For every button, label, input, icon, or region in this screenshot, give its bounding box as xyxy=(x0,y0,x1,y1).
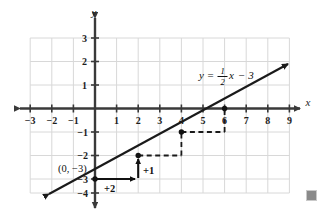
x-tick-label: 9 xyxy=(287,115,292,126)
point-6-0 xyxy=(222,106,227,111)
y-tick-label: 1 xyxy=(82,80,87,91)
y-tick-label: −2 xyxy=(77,150,88,161)
y-intercept-label: (0, −3) xyxy=(58,163,87,175)
x-tick-label: 1 xyxy=(114,115,119,126)
x-tick-label: −1 xyxy=(68,115,79,126)
equation-constant: − 3 xyxy=(238,69,254,81)
x-tick-label: 7 xyxy=(244,115,249,126)
y-tick-label: 2 xyxy=(82,56,87,67)
x-tick-label: 3 xyxy=(157,115,162,126)
equation-lhs: y = xyxy=(198,69,214,81)
graph-canvas: −3 −2 −1 1 2 3 4 5 6 7 8 9 3 2 1 −1 −2 −… xyxy=(0,0,326,215)
x-tick-label: 2 xyxy=(136,115,141,126)
point-0-neg3 xyxy=(92,176,97,181)
y-axis-title: y xyxy=(91,6,97,18)
run-label-plus-2: +2 xyxy=(104,183,115,194)
point-4-neg1 xyxy=(179,129,184,134)
equation-variable: x xyxy=(228,69,234,81)
coordinate-plane-figure: −3 −2 −1 1 2 3 4 5 6 7 8 9 3 2 1 −1 −2 −… xyxy=(0,0,326,215)
y-tick-label: −1 xyxy=(77,127,88,138)
x-tick-label: 5 xyxy=(201,115,206,126)
equation-numerator: 1 xyxy=(220,66,224,76)
y-tick-label: 3 xyxy=(82,33,87,44)
corner-square-artifact xyxy=(306,190,317,201)
rise-label-plus-1: +1 xyxy=(143,165,154,176)
x-axis-title: x xyxy=(305,96,311,108)
y-tick-label: −4 xyxy=(77,188,88,199)
point-2-neg2 xyxy=(136,153,141,158)
x-tick-label: 8 xyxy=(265,115,270,126)
x-tick-label: −2 xyxy=(46,115,57,126)
x-tick-labels: −3 −2 −1 1 2 3 4 5 6 7 8 9 xyxy=(25,115,292,126)
x-tick-label: −3 xyxy=(25,115,36,126)
